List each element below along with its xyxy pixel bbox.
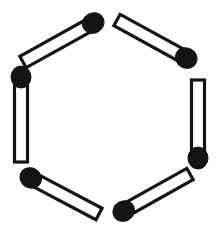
matchstick-hexagon-figure (0, 0, 218, 238)
matchstick-right-head (188, 147, 208, 169)
matchstick-left (11, 66, 31, 162)
matchstick-right (188, 80, 208, 169)
matchstick-left-head (11, 66, 31, 88)
matchstick-right-body (192, 80, 205, 154)
matchstick-canvas (0, 0, 218, 238)
matchstick-left-body (15, 81, 28, 162)
figure-background (0, 0, 218, 238)
